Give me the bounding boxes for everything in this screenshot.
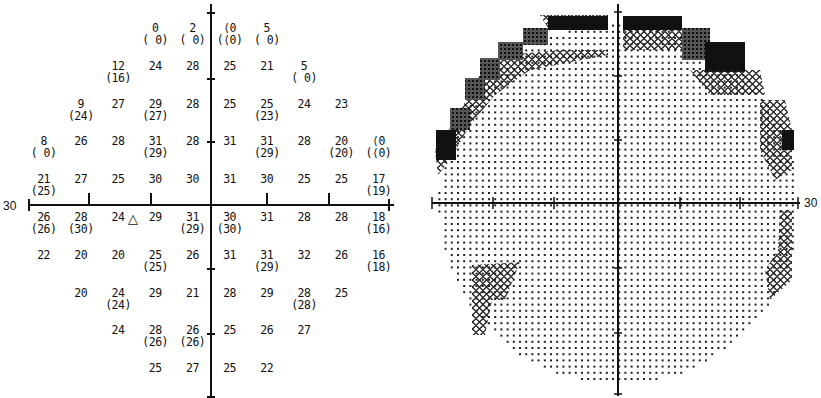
grayscale-heatmap <box>420 0 821 398</box>
threshold-value: 32 <box>284 249 324 261</box>
repeat-value: (16) <box>98 72 138 84</box>
threshold-cell: 21(25) <box>24 173 64 197</box>
threshold-cell: 23 <box>321 98 361 110</box>
repeat-value: (⟨0) <box>358 147 398 159</box>
repeat-value: (26) <box>172 336 212 348</box>
threshold-cell: 28(28) <box>284 287 324 311</box>
repeat-value: ( 0) <box>284 72 324 84</box>
threshold-cell: 2( 0) <box>172 22 212 46</box>
repeat-value: (23) <box>247 110 287 122</box>
repeat-value: (20) <box>321 147 361 159</box>
threshold-cell: ⟨0(⟨0) <box>358 135 398 159</box>
numeric-threshold-panel: 30 0( 0)2( 0)⟨0(⟨0)5( 0)12(16)242825215(… <box>0 0 420 398</box>
threshold-value: 29 <box>135 287 175 299</box>
threshold-value: 5 <box>284 60 324 72</box>
threshold-cell: 24 <box>98 324 138 336</box>
threshold-cell: 31 <box>210 173 250 185</box>
threshold-value: 27 <box>172 362 212 374</box>
threshold-cell: 21 <box>172 287 212 299</box>
threshold-cell: 25 <box>210 324 250 336</box>
threshold-cell: 26 <box>321 249 361 261</box>
threshold-cell: 27 <box>61 173 101 185</box>
threshold-cell: 18(16) <box>358 211 398 235</box>
threshold-value: 25 <box>135 249 175 261</box>
threshold-cell: 31 <box>247 211 287 223</box>
threshold-cell: 31(29) <box>247 135 287 159</box>
threshold-value: 28 <box>284 211 324 223</box>
repeat-value: (19) <box>358 185 398 197</box>
threshold-cell: 28 <box>284 211 324 223</box>
threshold-cell: 0( 0) <box>135 22 175 46</box>
threshold-value: 26 <box>247 324 287 336</box>
threshold-cell: 29 <box>247 287 287 299</box>
threshold-value: 25 <box>210 98 250 110</box>
threshold-cell: 28 <box>172 60 212 72</box>
threshold-cell: 28(26) <box>135 324 175 348</box>
threshold-cell: 32 <box>284 249 324 261</box>
threshold-value: 20 <box>98 249 138 261</box>
threshold-cell: 30(30) <box>210 211 250 235</box>
threshold-value: 30 <box>172 173 212 185</box>
threshold-cell: 24 <box>135 60 175 72</box>
repeat-value: ( 0) <box>135 34 175 46</box>
threshold-value: 22 <box>24 249 64 261</box>
repeat-value: (26) <box>135 336 175 348</box>
threshold-cell: 20 <box>61 249 101 261</box>
threshold-cell: 25 <box>321 287 361 299</box>
repeat-value: (18) <box>358 261 398 273</box>
axis-tick <box>328 193 330 205</box>
threshold-cell: 28 <box>98 135 138 147</box>
threshold-value: 21 <box>247 60 287 72</box>
threshold-cell: 31 <box>210 135 250 147</box>
repeat-value: (⟨0) <box>210 34 250 46</box>
threshold-cell: 22 <box>247 362 287 374</box>
threshold-value: 25 <box>321 173 361 185</box>
threshold-cell: 25 <box>321 173 361 185</box>
threshold-cell: 28 <box>284 135 324 147</box>
threshold-value: 26 <box>321 249 361 261</box>
blind-spot-triangle-icon: △ <box>128 211 138 226</box>
repeat-value: (29) <box>135 147 175 159</box>
threshold-value: 21 <box>172 287 212 299</box>
repeat-value: (25) <box>24 185 64 197</box>
threshold-cell: 25(25) <box>135 249 175 273</box>
threshold-value: 31 <box>210 249 250 261</box>
threshold-cell: 8( 0) <box>24 135 64 159</box>
axis-tick <box>28 199 30 211</box>
axis-tick <box>207 268 215 270</box>
repeat-value: (29) <box>247 147 287 159</box>
repeat-value: ( 0) <box>172 34 212 46</box>
threshold-value: 9 <box>61 98 101 110</box>
threshold-value: 26 <box>61 135 101 147</box>
threshold-value: 27 <box>98 98 138 110</box>
axis-tick <box>207 12 215 14</box>
threshold-value: 31 <box>210 173 250 185</box>
threshold-value: 28 <box>98 135 138 147</box>
threshold-cell: 29(27) <box>135 98 175 122</box>
threshold-cell: 27 <box>172 362 212 374</box>
repeat-value: (27) <box>135 110 175 122</box>
repeat-value: (30) <box>61 223 101 235</box>
threshold-cell: 12(16) <box>98 60 138 84</box>
threshold-value: 31 <box>247 211 287 223</box>
threshold-value: 25 <box>210 60 250 72</box>
threshold-cell: 25 <box>210 60 250 72</box>
threshold-value: 28 <box>321 211 361 223</box>
threshold-cell: ⟨0(⟨0) <box>210 22 250 46</box>
threshold-cell: 22 <box>24 249 64 261</box>
threshold-cell: 26(26) <box>24 211 64 235</box>
threshold-value: 25 <box>210 362 250 374</box>
threshold-cell: 28 <box>210 287 250 299</box>
threshold-cell: 30 <box>172 173 212 185</box>
axis-tick <box>388 199 390 211</box>
threshold-value: 28 <box>284 287 324 299</box>
grayscale-plot-panel: 30 <box>420 0 821 398</box>
repeat-value: ( 0) <box>247 34 287 46</box>
threshold-cell: 27 <box>284 324 324 336</box>
threshold-cell: 28 <box>321 211 361 223</box>
threshold-value: 28 <box>172 135 212 147</box>
threshold-cell: 29 <box>135 211 175 223</box>
threshold-value: 30 <box>247 173 287 185</box>
threshold-cell: 20 <box>61 287 101 299</box>
threshold-cell: 31 <box>210 249 250 261</box>
